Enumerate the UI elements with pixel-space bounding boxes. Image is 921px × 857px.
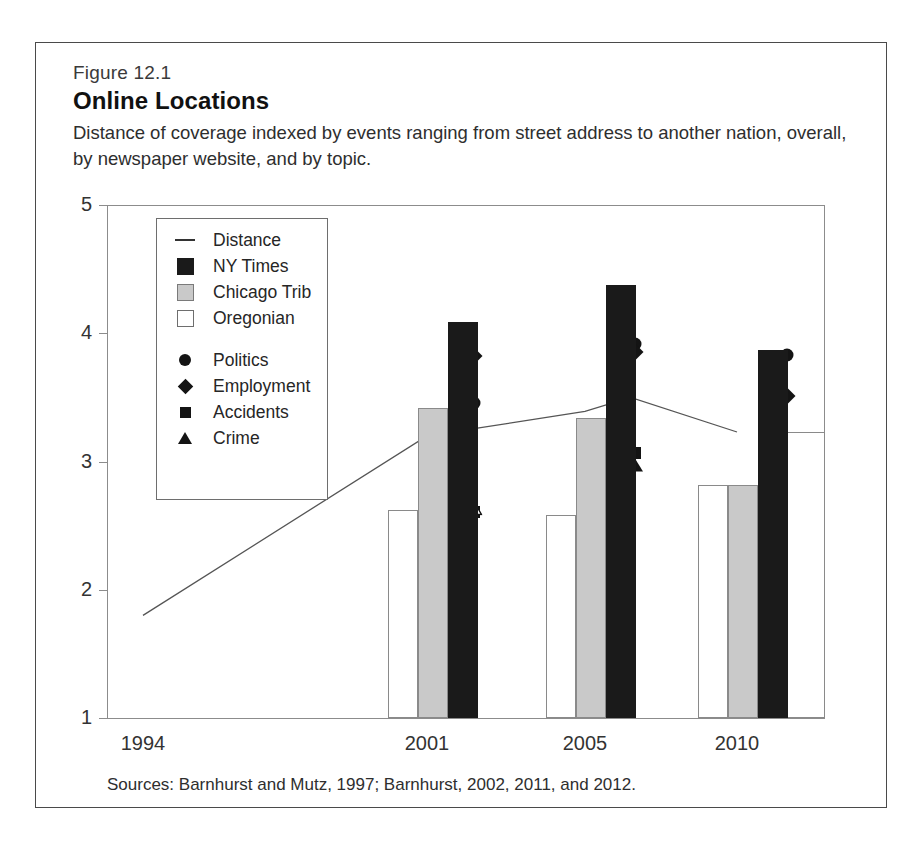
- y-tick-label: 2: [52, 578, 92, 601]
- legend-item-accidents: Accidents: [157, 399, 329, 425]
- figure-title: Online Locations: [73, 87, 269, 115]
- y-tick-label: 1: [52, 706, 92, 729]
- legend-item-politics: Politics: [157, 347, 329, 373]
- bar-chicago-trib-2010: [728, 485, 758, 718]
- bar-outline-extension-2010: [782, 432, 825, 718]
- chart-plot-area: 12345 1994200120052010 DistanceNY TimesC…: [107, 205, 825, 718]
- y-tick-label: 5: [52, 193, 92, 216]
- x-tick-label-1994: 1994: [83, 732, 203, 755]
- bar-oregonian-2010: [698, 485, 728, 718]
- x-tick-label-2001: 2001: [367, 732, 487, 755]
- legend-label: NY Times: [213, 256, 289, 277]
- bar-oregonian-2001: [388, 510, 418, 718]
- square-marker-icon: [157, 407, 213, 418]
- legend-label: Politics: [213, 350, 268, 371]
- x-axis-line: [107, 718, 825, 719]
- legend-item-chicago-trib: Chicago Trib: [157, 279, 329, 305]
- gray-square-icon: [157, 284, 213, 301]
- diamond-marker-icon: [157, 381, 213, 392]
- bar-ny-times-2005: [606, 285, 636, 718]
- circle-marker-icon: [157, 354, 213, 366]
- legend-label: Chicago Trib: [213, 282, 311, 303]
- y-tick-mark: [99, 333, 107, 334]
- y-tick-mark: [99, 718, 107, 719]
- y-tick-label: 4: [52, 321, 92, 344]
- x-tick-label-2005: 2005: [525, 732, 645, 755]
- bar-chicago-trib-2005: [576, 418, 606, 718]
- chart-legend: DistanceNY TimesChicago TribOregonianPol…: [156, 218, 328, 500]
- figure-page: Figure 12.1 Online Locations Distance of…: [0, 0, 921, 857]
- figure-number: Figure 12.1: [73, 62, 171, 84]
- bar-oregonian-2005: [546, 515, 576, 718]
- legend-label: Employment: [213, 376, 310, 397]
- y-tick-label: 3: [52, 450, 92, 473]
- legend-item-ny-times: NY Times: [157, 253, 329, 279]
- figure-subtitle: Distance of coverage indexed by events r…: [73, 120, 853, 172]
- black-square-icon: [157, 258, 213, 275]
- legend-label: Crime: [213, 428, 260, 449]
- sources-note: Sources: Barnhurst and Mutz, 1997; Barnh…: [107, 775, 636, 795]
- legend-item-oregonian: Oregonian: [157, 305, 329, 331]
- legend-item-crime: Crime: [157, 425, 329, 451]
- y-tick-mark: [99, 205, 107, 206]
- y-tick-mark: [99, 462, 107, 463]
- legend-label: Oregonian: [213, 308, 295, 329]
- white-square-icon: [157, 310, 213, 327]
- legend-label: Distance: [213, 230, 281, 251]
- y-tick-mark: [99, 590, 107, 591]
- x-tick-label-2010: 2010: [677, 732, 797, 755]
- legend-item-distance: Distance: [157, 227, 329, 253]
- triangle-marker-icon: [157, 432, 213, 444]
- bar-chicago-trib-2001: [418, 408, 448, 718]
- legend-item-employment: Employment: [157, 373, 329, 399]
- legend-label: Accidents: [213, 402, 289, 423]
- bar-ny-times-2001: [448, 322, 478, 718]
- bar-ny-times-2010: [758, 350, 788, 718]
- line-key-icon: [157, 239, 213, 241]
